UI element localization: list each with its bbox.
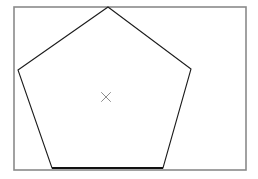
geometry-figure: [0, 0, 258, 179]
figure-background: [0, 0, 258, 179]
figure-container: [0, 0, 258, 179]
